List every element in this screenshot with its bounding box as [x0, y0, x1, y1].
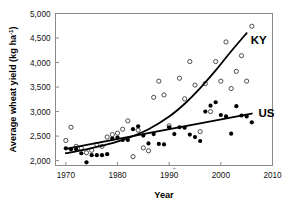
data-point	[203, 109, 207, 113]
data-point	[69, 125, 73, 129]
data-point	[64, 138, 68, 142]
plot-area	[64, 24, 254, 172]
series-us	[64, 100, 254, 164]
data-point	[224, 40, 228, 44]
data-point	[110, 133, 114, 137]
data-point	[157, 142, 161, 146]
data-point	[198, 130, 202, 134]
trend-line-ky	[66, 33, 247, 153]
data-point	[95, 153, 99, 157]
y-tick-label: 2,500	[30, 132, 51, 141]
y-tick-label: 4,000	[30, 59, 51, 68]
data-point	[219, 113, 223, 117]
x-tick-label: 1970	[57, 171, 76, 180]
data-point	[126, 138, 130, 142]
data-point	[146, 149, 150, 153]
data-point	[84, 151, 88, 155]
x-tick-label: 1990	[160, 171, 179, 180]
data-point	[183, 97, 187, 101]
data-point	[250, 120, 254, 124]
data-point	[188, 59, 192, 63]
data-point	[250, 24, 254, 28]
y-tick-label: 5,000	[30, 10, 51, 19]
x-tick-label: 1980	[108, 171, 127, 180]
data-point	[162, 93, 166, 97]
data-point	[229, 132, 233, 136]
data-point	[162, 142, 166, 146]
data-point	[229, 86, 233, 90]
series-label-ky: KY	[251, 34, 267, 46]
x-axis-title: Year	[154, 190, 174, 200]
data-point	[141, 146, 145, 150]
y-tick-label: 4,500	[30, 34, 51, 43]
series-ky	[64, 24, 254, 172]
data-point	[105, 152, 109, 156]
data-point	[234, 69, 238, 73]
data-point	[115, 131, 119, 135]
data-point	[146, 141, 150, 145]
series-label-us: US	[258, 107, 274, 119]
data-point	[121, 127, 125, 131]
data-point	[152, 95, 156, 99]
data-point	[136, 128, 140, 132]
data-point	[172, 132, 176, 136]
data-point	[105, 135, 109, 139]
y-tick-label: 3,500	[30, 83, 51, 92]
data-point	[214, 100, 218, 104]
data-point	[208, 109, 212, 113]
data-point	[239, 54, 243, 58]
y-tick-label: 3,000	[30, 108, 51, 117]
data-point	[131, 155, 135, 159]
data-point	[177, 76, 181, 80]
scatter-plot: 2,0002,5003,0003,5004,0004,5005,00019701…	[0, 0, 288, 206]
data-point	[136, 124, 140, 128]
data-point	[126, 119, 130, 123]
data-point	[214, 59, 218, 63]
x-tick-label: 2000	[212, 171, 231, 180]
y-tick-label: 2,000	[30, 157, 51, 166]
data-point	[131, 127, 135, 131]
data-point	[157, 79, 161, 83]
data-point	[198, 139, 202, 143]
data-point	[193, 135, 197, 139]
data-point	[90, 153, 94, 157]
data-point	[234, 104, 238, 108]
data-point	[208, 104, 212, 108]
y-axis-title: Average wheat yield (kg ha-1)	[8, 26, 18, 152]
data-point	[245, 79, 249, 83]
chart-figure: 2,0002,5003,0003,5004,0004,5005,00019701…	[0, 0, 288, 206]
data-point	[193, 83, 197, 87]
data-point	[84, 160, 88, 164]
data-point	[79, 151, 83, 155]
data-point	[219, 79, 223, 83]
data-point	[188, 133, 192, 137]
x-tick-label: 2010	[263, 171, 282, 180]
data-point	[100, 153, 104, 157]
